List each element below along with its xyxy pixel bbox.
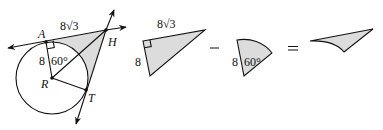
equals-sign bbox=[288, 47, 298, 51]
label-a: A bbox=[37, 27, 46, 41]
label-angle: 60° bbox=[51, 54, 68, 68]
geometry-diagram: A H R T 8√3 8 60° 8√3 8 8 60° bbox=[0, 0, 383, 130]
label-angle: 60° bbox=[244, 55, 261, 69]
label-radius: 8 bbox=[39, 54, 45, 68]
label-leg: 8 bbox=[135, 55, 141, 69]
label-h: H bbox=[107, 35, 118, 49]
point-r bbox=[50, 76, 54, 80]
circle-figure: A H R T 8√3 8 60° bbox=[8, 10, 126, 124]
tangent-line-ah-ext bbox=[106, 27, 126, 30]
radius-rt bbox=[52, 78, 86, 90]
label-radius: 8 bbox=[232, 55, 238, 69]
result-fill bbox=[310, 29, 373, 52]
tangent-line-ht-ext bbox=[106, 10, 114, 30]
point-h bbox=[104, 28, 108, 32]
result-shape bbox=[310, 29, 373, 52]
triangle-fill bbox=[143, 30, 205, 76]
label-t: T bbox=[88, 91, 96, 105]
sector-figure: 8 60° bbox=[232, 39, 272, 76]
label-tangent-length: 8√3 bbox=[157, 17, 176, 31]
label-r: R bbox=[40, 77, 49, 91]
triangle-figure: 8√3 8 bbox=[135, 17, 205, 76]
label-tangent-length: 8√3 bbox=[60, 19, 79, 33]
